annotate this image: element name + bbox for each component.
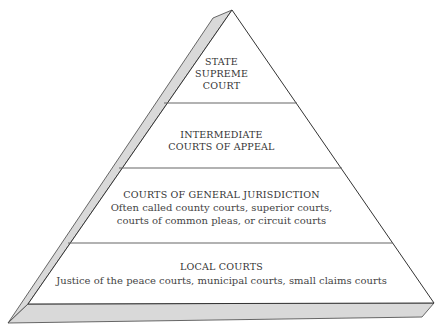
pyramid-front-face: [28, 10, 434, 304]
pyramid-bottom-face: [8, 303, 434, 323]
court-pyramid-diagram: [0, 0, 443, 329]
